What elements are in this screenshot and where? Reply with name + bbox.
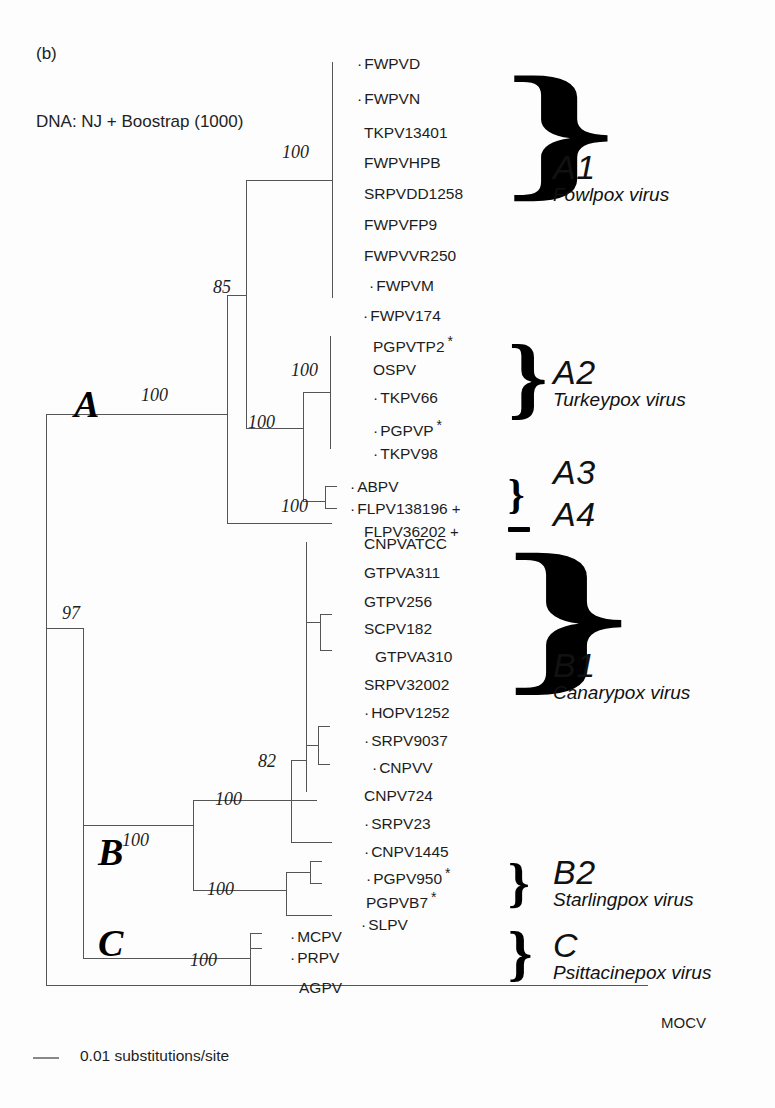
branch-b1-node <box>291 760 292 842</box>
branch-a2a3-node <box>303 392 304 501</box>
method-note: DNA: NJ + Boostrap (1000) <box>36 112 243 132</box>
taxon-label: CNPV724 <box>364 788 433 804</box>
branch-c-tip-agpv <box>250 985 272 986</box>
group-label-a2: A2 Turkeypox virus <box>553 355 686 409</box>
bootstrap-b1-82: 82 <box>258 751 276 772</box>
branch-b-stem <box>83 825 193 826</box>
taxon-label: ·FWPVM <box>369 278 434 294</box>
taxon-label: ·FWPVN <box>357 91 420 107</box>
bootstrap-root-97: 97 <box>62 603 80 624</box>
taxon-label: CNPVATCC <box>364 536 447 552</box>
taxon-label: FWPVVR250 <box>364 248 456 264</box>
branch-bc-node <box>83 628 84 958</box>
panel-label: (b) <box>36 44 57 64</box>
branch-b1-rail <box>306 542 307 792</box>
brace-a3: } <box>508 473 525 515</box>
taxon-label: ·PRPV <box>290 950 339 966</box>
branch-root-stem <box>46 414 47 985</box>
taxon-label: ·SRPV9037 <box>364 733 448 749</box>
group-code: C <box>553 928 711 962</box>
clade-letter-c: C <box>98 924 123 962</box>
taxon-label: AGPV <box>299 980 342 996</box>
taxon-label: SCPV182 <box>364 621 432 637</box>
branch-a4-tip <box>227 523 332 524</box>
branch-b1-sub2-tip2 <box>318 764 330 765</box>
group-label-a1: A1 Fowlpox virus <box>553 150 669 204</box>
branch-b1-sub1-tip2 <box>320 650 332 651</box>
branch-c-node <box>250 933 251 985</box>
taxon-label: FWPVHPB <box>364 155 441 171</box>
branch-b1-sub2-tip1 <box>318 726 330 727</box>
branch-b1-tip-cnpv1445 <box>291 842 332 843</box>
taxon-label: ·ABPV <box>350 479 399 495</box>
branch-b1-stem <box>193 800 291 801</box>
taxon-label: ·PGPV950* <box>366 866 451 887</box>
branch-b2-node <box>286 872 287 915</box>
clade-letter-b: B <box>98 833 123 871</box>
taxon-label: TKPV13401 <box>364 125 448 141</box>
branch-a2-rail <box>330 336 331 449</box>
branch-a3-tip1 <box>325 486 337 487</box>
branch-b1-sub1-tip1 <box>320 614 332 615</box>
group-code: A1 <box>553 150 669 184</box>
taxon-label: GTPVA311 <box>364 565 440 581</box>
group-code: B2 <box>553 855 693 889</box>
branch-b2-tip-pgpv950 <box>310 861 322 862</box>
group-code: A2 <box>553 355 686 389</box>
bootstrap-a1: 100 <box>282 142 309 163</box>
branch-a3-tip2 <box>325 508 337 509</box>
branch-a-node <box>227 295 228 523</box>
taxon-label: ·SLPV <box>361 917 408 933</box>
brace-a2: } <box>508 330 548 422</box>
group-species: Fowlpox virus <box>553 185 669 204</box>
branch-b1-sub2-stem <box>306 745 318 746</box>
taxon-label: ·CNPV1445 <box>364 844 449 860</box>
branch-b2-pair-stem <box>286 872 310 873</box>
bootstrap-b2: 100 <box>207 879 234 900</box>
clade-letter-a: A <box>74 385 99 423</box>
branch-c-tip-prpv <box>250 948 262 949</box>
branch-a1-rail <box>332 62 333 298</box>
taxon-label: FWPVFP9 <box>364 217 437 233</box>
bootstrap-a3: 100 <box>281 496 308 517</box>
taxon-label: ·PGPVP* <box>373 418 442 439</box>
taxon-label: PGPVTP2* <box>373 334 453 355</box>
taxon-label: ·FLPV138196+ <box>350 501 460 517</box>
taxon-label: SRPVDD1258 <box>364 186 463 202</box>
bootstrap-a2-lower: 100 <box>248 412 275 433</box>
branch-b1-sub1-stem <box>306 622 320 623</box>
bootstrap-b-upper: 100 <box>215 789 242 810</box>
branch-b1-sub1-rail <box>320 614 321 650</box>
bootstrap-a-85: 85 <box>213 277 231 298</box>
group-species: Psittacinepox virus <box>553 963 711 982</box>
bootstrap-b-root: 100 <box>122 830 149 851</box>
branch-b1-upper-stem <box>291 760 306 761</box>
scale-bar-label: 0.01 substitutions/site <box>80 1047 229 1065</box>
group-code: B1 <box>553 648 690 682</box>
taxon-label: ·CNPVV <box>372 760 433 776</box>
group-label-b2: B2 Starlingpox virus <box>553 855 693 909</box>
group-species: Starlingpox virus <box>553 890 693 909</box>
taxon-label: PGPVB7* <box>366 890 436 911</box>
taxon-label: ·FWPVD <box>357 56 420 72</box>
taxon-label: ·TKPV98 <box>373 446 438 462</box>
taxon-label: ·TKPV66 <box>373 390 438 406</box>
branch-b2-tip-slpv <box>286 915 332 916</box>
branch-a2-stem <box>303 392 330 393</box>
branch-bc-stem <box>46 628 83 629</box>
group-code: A3 <box>553 455 596 489</box>
taxon-label: ·SRPV23 <box>364 816 431 832</box>
branch-a85-node <box>246 180 247 428</box>
brace-c: } <box>508 922 532 984</box>
branch-b-node <box>193 800 194 890</box>
group-label-a3: A3 <box>553 455 596 489</box>
taxon-label: OSPV <box>373 362 416 378</box>
brace-b2: } <box>508 855 530 910</box>
phylogenetic-tree-figure: (b) DNA: NJ + Boostrap (1000) <box>0 0 775 1108</box>
taxon-label: SRPV32002 <box>364 677 449 693</box>
branch-b1-sub2-rail <box>318 726 319 764</box>
group-label-b1: B1 Canarypox virus <box>553 648 690 702</box>
bootstrap-c: 100 <box>190 950 217 971</box>
group-species: Turkeypox virus <box>553 390 686 409</box>
scale-bar-line <box>33 1057 59 1059</box>
